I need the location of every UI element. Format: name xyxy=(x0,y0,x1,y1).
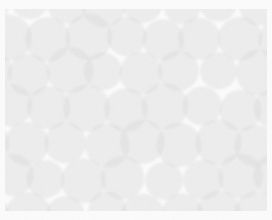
pattern-circle xyxy=(156,123,201,168)
pattern-canvas xyxy=(0,0,272,220)
pattern-circle xyxy=(84,52,122,90)
pattern-circle xyxy=(27,160,65,198)
pattern-circle xyxy=(107,17,146,56)
pattern-circle xyxy=(200,52,237,89)
pattern-circle xyxy=(45,122,87,164)
circle-field-group xyxy=(0,0,272,220)
overlapping-circles-artwork xyxy=(0,0,272,220)
